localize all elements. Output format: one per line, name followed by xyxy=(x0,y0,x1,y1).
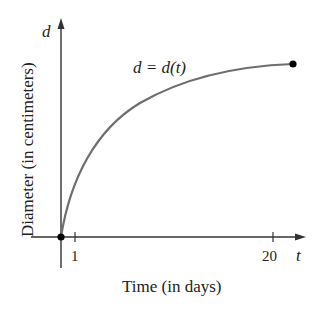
start-point xyxy=(57,233,64,240)
y-axis-title: Diameter (in centimeters) xyxy=(18,62,37,237)
growth-curve xyxy=(61,64,293,237)
x-tick-label-20: 20 xyxy=(262,248,277,264)
curve-label: d = d(t) xyxy=(133,58,186,77)
y-axis-arrow-icon xyxy=(58,18,65,29)
growth-chart: d t 1 20 d = d(t) Time (in days) Diamete… xyxy=(0,0,324,309)
x-axis-arrow-icon xyxy=(295,234,306,241)
y-axis-var-label: d xyxy=(42,22,51,41)
x-tick-label-1: 1 xyxy=(71,248,79,264)
end-point xyxy=(289,60,296,67)
x-axis-var-label: t xyxy=(296,246,302,265)
x-axis-title: Time (in days) xyxy=(122,277,222,296)
